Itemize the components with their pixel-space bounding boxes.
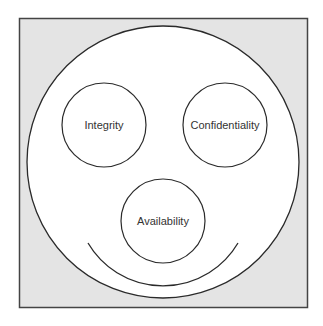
integrity-label: Integrity [84,119,124,131]
confidentiality-label: Confidentiality [190,119,260,131]
availability-label: Availability [137,215,189,227]
cia-diagram: Integrity Confidentiality Availability [0,0,323,326]
